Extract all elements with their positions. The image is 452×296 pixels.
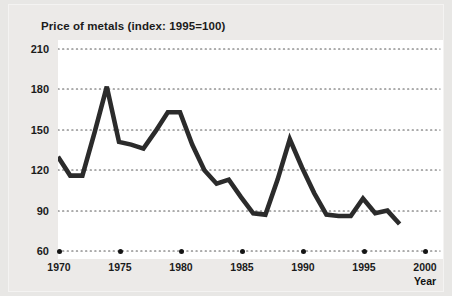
x-tick-1975: 1975 [100,261,140,273]
data-series-line [58,87,400,224]
x-tick-2000: 2000 [405,261,445,273]
y-tick-210: 210 [19,43,49,55]
x-axis-title: Year [405,275,445,287]
x-tick-1990: 1990 [283,261,323,273]
y-tick-60: 60 [19,245,49,257]
x-tick-dot-1985 [240,249,245,254]
chart-card: Price of metals (index: 1995=100) 210 18… [8,4,444,292]
x-tick-1995: 1995 [344,261,384,273]
x-tick-dot-2000 [423,249,428,254]
y-tick-120: 120 [19,164,49,176]
chart-screenshot: Price of metals (index: 1995=100) 210 18… [0,0,452,296]
x-tick-dot-1970 [57,249,62,254]
x-tick-dot-1990 [301,249,306,254]
x-tick-1985: 1985 [222,261,262,273]
x-tick-1980: 1980 [161,261,201,273]
x-tick-1970: 1970 [39,261,79,273]
x-tick-dot-1975 [118,249,123,254]
chart-title: Price of metals (index: 1995=100) [41,20,226,32]
line-chart-svg [58,40,443,259]
gridlines [58,49,440,251]
x-tick-dot-1995 [362,249,367,254]
y-tick-180: 180 [19,83,49,95]
y-tick-90: 90 [19,205,49,217]
y-tick-150: 150 [19,124,49,136]
x-tick-dot-1980 [179,249,184,254]
plot-area [58,40,443,259]
